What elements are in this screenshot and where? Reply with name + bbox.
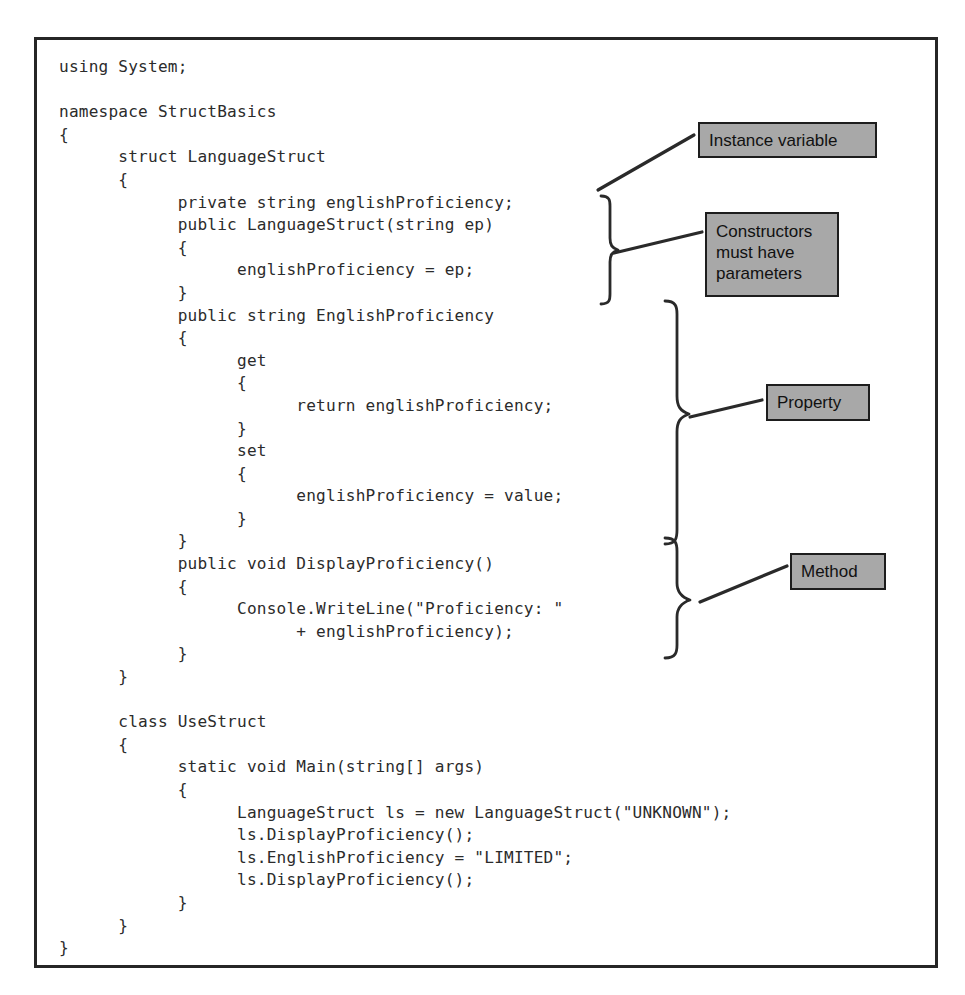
- callout-property: Property: [766, 384, 870, 421]
- callout-constructors-line-1: Constructors: [716, 221, 828, 242]
- callout-constructors: Constructors must have parameters: [705, 212, 839, 297]
- callout-constructors-line-3: parameters: [716, 263, 828, 284]
- callout-method: Method: [790, 553, 886, 590]
- callout-instance-variable: Instance variable: [698, 122, 877, 158]
- code-figure-frame: using System; namespace StructBasics { s…: [34, 37, 938, 968]
- code-listing: using System; namespace StructBasics { s…: [59, 56, 731, 960]
- callout-constructors-line-2: must have: [716, 242, 828, 263]
